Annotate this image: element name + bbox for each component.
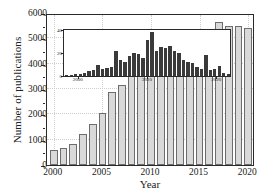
bar (89, 124, 97, 165)
bar (108, 92, 116, 165)
inset-histogram: 02040 200020102020 (63, 29, 231, 77)
bar (50, 150, 58, 165)
y-tick-mark (41, 39, 45, 40)
y-tick-mark (41, 115, 45, 116)
bar (60, 148, 68, 165)
x-tick-label: 2000 (33, 168, 73, 178)
bar (79, 134, 87, 165)
inset-y-tick-label: 40 (46, 28, 62, 33)
y-minor-tick-mark (43, 52, 45, 53)
x-tick-label: 2005 (81, 168, 121, 178)
inset-bar-series (64, 30, 230, 76)
y-tick-mark (41, 90, 45, 91)
inset-y-tick-label: 20 (46, 51, 62, 56)
inset-bar (226, 74, 230, 76)
inset-x-tick-mark (216, 76, 217, 79)
bar (118, 85, 126, 165)
inset-y-tick-mark (61, 76, 64, 77)
publications-bar-chart-figure: Number of publications Year 010002000300… (0, 0, 262, 196)
y-tick-mark (41, 141, 45, 142)
y-minor-tick-mark (43, 153, 45, 154)
inset-y-tick-mark (61, 53, 64, 54)
y-minor-tick-mark (43, 27, 45, 28)
inset-y-tick-mark (61, 30, 64, 31)
x-tick-label: 2015 (179, 168, 219, 178)
bar (69, 144, 77, 165)
inset-x-tick-mark (78, 76, 79, 79)
x-tick-label: 2020 (227, 168, 262, 178)
inset-y-tick-label: 0 (46, 74, 62, 79)
y-minor-tick-mark (43, 128, 45, 129)
bar (235, 26, 243, 165)
bar (99, 113, 107, 165)
y-tick-mark (41, 14, 45, 15)
x-tick-label: 2010 (130, 168, 170, 178)
inset-x-tick-mark (147, 76, 148, 79)
y-minor-tick-mark (43, 103, 45, 104)
y-minor-tick-mark (43, 77, 45, 78)
plot-area: 02040 200020102020 (46, 14, 254, 166)
bar (128, 73, 136, 165)
x-axis-title: Year (46, 178, 254, 190)
bar (244, 28, 252, 165)
y-tick-mark (41, 65, 45, 66)
